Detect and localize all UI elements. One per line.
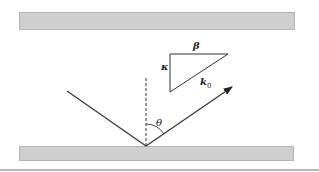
ray-diagram bbox=[0, 0, 319, 172]
k0-main: k bbox=[200, 76, 207, 87]
kappa-label: κ bbox=[161, 62, 169, 72]
k0-subscript: 0 bbox=[207, 82, 211, 90]
theta-label: θ bbox=[156, 118, 162, 128]
k0-label: k0 bbox=[200, 77, 211, 90]
triangle-k0-side bbox=[170, 54, 228, 92]
incident-ray bbox=[67, 91, 146, 146]
beta-label: β bbox=[193, 41, 200, 51]
